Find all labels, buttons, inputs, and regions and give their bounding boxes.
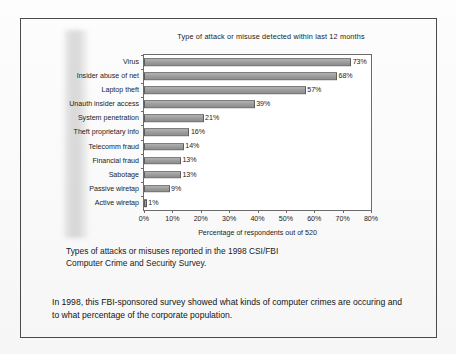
bar-value-label: 14% <box>185 143 199 151</box>
x-axis-title: Percentage of respondents out of 520 <box>143 229 372 237</box>
x-axis-tick <box>343 210 344 213</box>
chart-bar-row: Telecomm fraud14% <box>144 140 371 154</box>
x-axis-tick-label: 20% <box>194 215 208 223</box>
y-axis-tick <box>141 125 144 126</box>
chart-bar-row: Active wiretap1% <box>144 196 371 210</box>
figure-container: Type of attack or misuse detected within… <box>20 18 437 274</box>
y-axis-tick <box>141 140 144 141</box>
y-axis-tick <box>141 69 144 70</box>
bar-value-label: 13% <box>182 157 196 165</box>
category-label: Active wiretap <box>95 199 139 207</box>
bar: 39% <box>144 101 255 109</box>
category-label: Sabotage <box>109 171 139 179</box>
bar-value-label: 68% <box>338 72 352 80</box>
bar-value-label: 57% <box>307 86 321 94</box>
category-label: Virus <box>123 58 139 66</box>
x-axis-tick <box>314 210 315 213</box>
bar: 21% <box>144 115 204 123</box>
x-axis-tick <box>286 210 287 213</box>
bar-value-label: 16% <box>191 128 205 136</box>
x-axis-tick <box>371 210 372 213</box>
chart-bar-row: Laptop theft57% <box>144 83 371 97</box>
x-axis-tick <box>201 210 202 213</box>
bar: 16% <box>144 129 189 137</box>
bar: 9% <box>144 185 170 193</box>
bar: 73% <box>144 58 351 66</box>
explanatory-note-line-1: In 1998, this FBI-sponsored survey showe… <box>52 296 424 309</box>
x-axis-tick <box>258 210 259 213</box>
bar: 1% <box>144 199 147 207</box>
category-label: Financial fraud <box>92 157 139 165</box>
bar-value-label: 9% <box>171 185 181 193</box>
y-axis-tick <box>141 97 144 98</box>
x-axis-tick-label: 80% <box>364 215 378 223</box>
chart-bar-row: Virus73% <box>144 55 371 69</box>
category-label: Laptop theft <box>102 86 139 94</box>
x-axis-tick-label: 60% <box>307 215 321 223</box>
chart-bar-row: Passive wiretap9% <box>144 182 371 196</box>
bar-value-label: 13% <box>182 171 196 179</box>
bar: 68% <box>144 72 337 80</box>
category-label: Theft proprietary info <box>74 128 139 136</box>
x-axis-tick <box>229 210 230 213</box>
x-axis-tick-label: 10% <box>165 215 179 223</box>
figure-caption-line-2: Computer Crime and Security Survey. <box>66 258 396 270</box>
chart-bar-row: Financial fraud13% <box>144 154 371 168</box>
chart-title: Type of attack or misuse detected within… <box>136 32 406 41</box>
explanatory-note: In 1998, this FBI-sponsored survey showe… <box>52 296 424 322</box>
chart-bar-row: System penetration21% <box>144 111 371 125</box>
y-axis-tick <box>141 111 144 112</box>
bar-value-label: 73% <box>353 58 367 66</box>
category-label: Passive wiretap <box>89 185 139 193</box>
chart-bar-row: Theft proprietary info16% <box>144 125 371 139</box>
category-label: System penetration <box>78 114 139 122</box>
bar: 14% <box>144 143 184 151</box>
y-axis-tick <box>141 182 144 183</box>
y-axis-tick <box>141 196 144 197</box>
chart-bar-row: Insider abuse of net68% <box>144 69 371 83</box>
bar-value-label: 1% <box>148 199 158 207</box>
figure-caption-line-1: Types of attacks or misuses reported in … <box>66 246 396 258</box>
x-axis-tick-label: 50% <box>279 215 293 223</box>
y-axis-tick <box>141 83 144 84</box>
y-axis-tick <box>141 55 144 56</box>
bar-value-label: 39% <box>256 100 270 108</box>
bar: 13% <box>144 157 181 165</box>
explanatory-note-line-2: to what percentage of the corporate popu… <box>52 309 424 322</box>
y-axis-tick <box>141 154 144 155</box>
y-axis-tick <box>141 168 144 169</box>
chart-plot-area: Virus73%Insider abuse of net68%Laptop th… <box>143 54 372 211</box>
bar: 57% <box>144 86 306 94</box>
chart-bar-row: Sabotage13% <box>144 168 371 182</box>
bar: 13% <box>144 171 181 179</box>
category-label: Insider abuse of net <box>77 72 139 80</box>
x-axis-tick-label: 40% <box>250 215 264 223</box>
x-axis-tick-label: 70% <box>336 215 350 223</box>
chart-bar-row: Unauth insider access39% <box>144 97 371 111</box>
category-label: Telecomm fraud <box>89 143 139 151</box>
x-axis-tick-label: 0% <box>139 215 149 223</box>
bar-value-label: 21% <box>205 114 219 122</box>
x-axis-tick <box>144 210 145 213</box>
x-axis-tick <box>172 210 173 213</box>
category-label: Unauth insider access <box>69 100 139 108</box>
x-axis-tick-label: 30% <box>222 215 236 223</box>
figure-caption: Types of attacks or misuses reported in … <box>66 246 396 269</box>
